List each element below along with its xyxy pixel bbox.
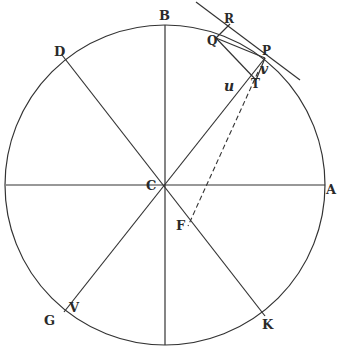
label-K: K bbox=[262, 317, 274, 332]
label-v: v bbox=[260, 61, 269, 77]
label-D: D bbox=[54, 44, 65, 59]
label-G: G bbox=[44, 313, 55, 328]
label-P: P bbox=[262, 44, 271, 58]
label-A: A bbox=[325, 182, 337, 197]
label-F: F bbox=[176, 218, 186, 233]
dashed-line-TF bbox=[188, 72, 258, 226]
label-u: u bbox=[224, 78, 234, 94]
label-R: R bbox=[224, 12, 235, 26]
label-C: C bbox=[146, 178, 156, 193]
label-V: V bbox=[68, 300, 80, 315]
label-T: T bbox=[251, 77, 260, 91]
line-QT bbox=[216, 38, 256, 80]
geometry-figure: B R Q P v T u D C A F V G K bbox=[0, 0, 338, 354]
label-Q: Q bbox=[207, 34, 217, 48]
label-B: B bbox=[159, 8, 170, 23]
